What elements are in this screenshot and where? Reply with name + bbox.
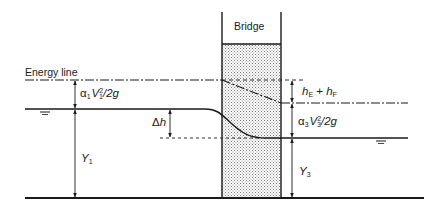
head-loss-label: hE + hF [302, 86, 337, 98]
downstream-velocity-head-label: α3 V23/2g [298, 116, 337, 128]
water-surface-profile [25, 109, 408, 138]
bridge-opening-stipple [222, 44, 281, 198]
downstream-depth-label: Y3 [299, 166, 311, 178]
water-surface-symbol-upstream [40, 112, 50, 115]
bridge-structure [222, 12, 281, 198]
upstream-velocity-head-label: α1 V21/2g [80, 88, 119, 100]
energy-line-label: Energy line [25, 67, 78, 78]
drop-label: Δh [152, 117, 166, 129]
water-surface-symbol-downstream [376, 141, 386, 144]
bridge-label: Bridge [234, 21, 264, 32]
bridge-flow-diagram: Bridge Energy line α1 V21/2g hE + hF α3 … [0, 0, 435, 212]
diagram-canvas [0, 0, 435, 212]
upstream-depth-label: Y1 [81, 153, 93, 165]
